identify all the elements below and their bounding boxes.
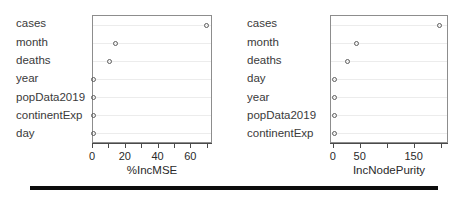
x-tick-label: 0 <box>89 150 95 162</box>
panel-incmse: casesmonthdeathsyearpopData2019continent… <box>0 0 232 197</box>
data-point-popdata2019 <box>91 95 96 100</box>
category-label-month: month <box>16 37 48 49</box>
gridline <box>331 25 447 26</box>
x-tick-label: 150 <box>404 150 422 162</box>
data-point-continentexp <box>91 113 96 118</box>
category-label-day: day <box>16 128 35 140</box>
category-labels-right: casesmonthdeathsdayyearpopData2019contin… <box>247 15 331 143</box>
data-point-cases <box>204 23 209 28</box>
x-tick <box>141 143 142 148</box>
category-label-month: month <box>247 37 279 49</box>
gridline <box>331 97 447 98</box>
x-tick <box>108 143 109 148</box>
plot-area-incmse <box>92 15 212 143</box>
category-label-popdata2019: popData2019 <box>16 92 85 104</box>
gridline <box>93 97 211 98</box>
x-tick-label: 60 <box>184 150 196 162</box>
x-tick <box>387 143 388 148</box>
category-label-continentexp: continentExp <box>16 110 83 122</box>
gridline <box>93 43 211 44</box>
x-tick <box>333 143 334 148</box>
category-label-year: year <box>247 92 269 104</box>
category-label-year: year <box>16 73 38 85</box>
gridline <box>93 115 211 116</box>
x-tick <box>441 143 442 148</box>
bottom-divider-rule <box>30 186 438 190</box>
category-label-popdata2019: popData2019 <box>247 110 316 122</box>
x-tick <box>414 143 415 148</box>
gridline <box>331 43 447 44</box>
gridline <box>331 79 447 80</box>
x-tick <box>360 143 361 148</box>
gridline <box>331 133 447 134</box>
category-label-deaths: deaths <box>16 55 51 67</box>
axis-line <box>92 143 212 144</box>
data-point-year <box>91 77 96 82</box>
axis-line <box>330 143 448 144</box>
x-tick <box>158 143 159 148</box>
x-tick <box>190 143 191 148</box>
data-point-popdata2019 <box>332 113 337 118</box>
data-point-year <box>332 95 337 100</box>
x-tick-label: 40 <box>151 150 163 162</box>
category-label-day: day <box>247 73 266 85</box>
x-tick-label: 50 <box>354 150 366 162</box>
data-point-cases <box>437 23 442 28</box>
category-label-deaths: deaths <box>247 55 282 67</box>
x-axis-title-incnodepurity: IncNodePurity <box>330 164 448 176</box>
panel-incnodepurity: casesmonthdeathsdayyearpopData2019contin… <box>232 0 464 197</box>
category-label-continentexp: continentExp <box>247 128 314 140</box>
data-point-deaths <box>345 59 350 64</box>
gridline <box>331 115 447 116</box>
category-labels-left: casesmonthdeathsyearpopData2019continent… <box>16 15 90 143</box>
x-axis-title-incmse: %IncMSE <box>92 164 212 176</box>
x-tick <box>92 143 93 148</box>
data-point-deaths <box>107 59 112 64</box>
x-tick <box>125 143 126 148</box>
data-point-day <box>332 77 337 82</box>
x-tick-label: 0 <box>330 150 336 162</box>
x-tick-label: 20 <box>119 150 131 162</box>
x-tick <box>174 143 175 148</box>
variable-importance-figure: casesmonthdeathsyearpopData2019continent… <box>0 0 464 197</box>
category-label-cases: cases <box>247 18 277 30</box>
category-label-cases: cases <box>16 18 46 30</box>
data-point-continentexp <box>332 131 337 136</box>
x-tick <box>207 143 208 148</box>
plot-area-incnodepurity <box>330 15 448 143</box>
data-point-month <box>354 41 359 46</box>
data-point-month <box>113 41 118 46</box>
gridline <box>93 25 211 26</box>
gridline <box>93 79 211 80</box>
data-point-day <box>91 131 96 136</box>
gridline <box>93 133 211 134</box>
